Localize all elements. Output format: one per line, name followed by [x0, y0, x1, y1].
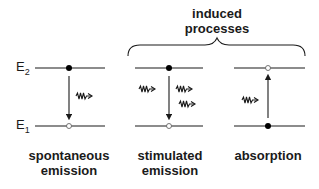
level-subscript: 2: [25, 67, 30, 77]
upper-level-label: E2: [16, 59, 30, 77]
level-subscript: 1: [25, 125, 30, 135]
stimulated-emission-label: stimulated emission: [120, 148, 220, 178]
label-line-1: absorption: [218, 148, 318, 163]
empty-state-icon: [266, 66, 271, 71]
filled-electron-icon: [66, 65, 72, 71]
stimulated-emission-panel: [135, 65, 203, 129]
spontaneous-emission-label: spontaneous emission: [19, 148, 119, 178]
induced-processes-brace: [128, 38, 305, 56]
empty-state-icon: [67, 124, 72, 129]
absorbed-photon-icon: [242, 97, 258, 103]
filled-electron-icon: [166, 65, 172, 71]
absorption-label: absorption: [218, 148, 318, 163]
level-symbol: E: [16, 117, 25, 132]
spontaneous-emission-panel: [35, 65, 105, 129]
incident-photon-icon: [139, 86, 155, 92]
level-symbol: E: [16, 59, 25, 74]
label-line-2: emission: [120, 163, 220, 178]
filled-electron-icon: [265, 123, 271, 129]
title-line-1: induced: [167, 6, 267, 21]
title-line-2: processes: [167, 21, 267, 36]
emitted-photon-icon: [176, 86, 192, 92]
label-line-2: emission: [19, 163, 119, 178]
absorption-panel: [234, 66, 305, 130]
emitted-photon-icon: [179, 101, 195, 107]
empty-state-icon: [167, 124, 172, 129]
emitted-photon-icon: [76, 93, 92, 99]
label-line-1: stimulated: [120, 148, 220, 163]
induced-processes-title: induced processes: [167, 6, 267, 36]
label-line-1: spontaneous: [19, 148, 119, 163]
lower-level-label: E1: [16, 117, 30, 135]
